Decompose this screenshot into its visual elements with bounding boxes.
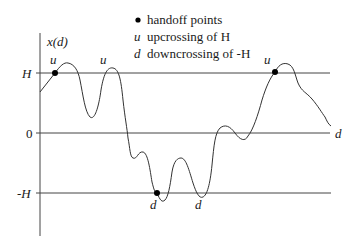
legend-dot-icon xyxy=(135,17,140,22)
handoff-point-2 xyxy=(154,190,160,196)
marker-upcrossing-2: u xyxy=(100,52,107,67)
legend-item-handoff: handoff points xyxy=(147,12,222,27)
y-axis-label: x(d) xyxy=(46,34,68,49)
marker-downcrossing-1: d xyxy=(150,197,157,212)
level-label-zero: 0 xyxy=(26,126,33,141)
legend-item-upcrossing: upcrossing of H xyxy=(147,29,230,44)
signal-curve xyxy=(40,63,331,201)
level-label-minus-H: -H xyxy=(17,186,31,201)
handoff-point-1 xyxy=(52,70,58,76)
marker-upcrossing-1: u xyxy=(50,52,57,67)
legend-symbol-d: d xyxy=(134,46,141,61)
handoff-point-3 xyxy=(272,69,278,75)
legend-symbol-u: u xyxy=(134,29,141,44)
marker-downcrossing-2: d xyxy=(195,197,202,212)
legend-item-downcrossing: downcrossing of -H xyxy=(147,46,250,61)
legend: handoff points u upcrossing of H d downc… xyxy=(134,12,250,61)
x-axis-label: d xyxy=(335,126,342,141)
signal-crossing-diagram: H 0 -H x(d) d handoff points u upcrossin… xyxy=(0,0,360,245)
level-label-H: H xyxy=(21,66,32,81)
marker-upcrossing-3: u xyxy=(264,52,271,67)
